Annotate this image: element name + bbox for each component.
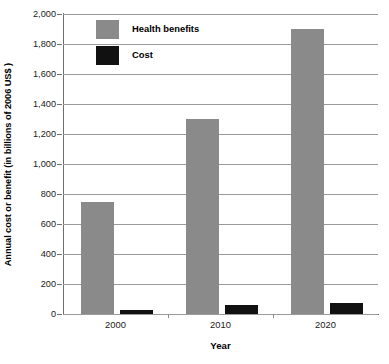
y-axis-title-text: Annual cost or benefit (in billions of 2… (4, 63, 13, 266)
bar-cost-2010 (225, 305, 258, 314)
bar-chart-figure: Annual cost or benefit (in billions of 2… (0, 0, 389, 364)
legend-label: Cost (132, 50, 153, 59)
bar-health-benefits-2010 (186, 119, 219, 314)
y-axis-tick (57, 134, 62, 135)
y-axis-tick (57, 74, 62, 75)
y-axis-tick (57, 314, 62, 315)
y-axis-tick-label: 600 (41, 220, 56, 229)
y-axis-tick-label: 1,400 (33, 100, 56, 109)
y-axis-tick-label: 800 (41, 190, 56, 199)
y-axis-tick (57, 104, 62, 105)
gridline (63, 314, 378, 315)
x-axis-tick-label: 2020 (273, 320, 378, 329)
y-axis-tick-label: 1,000 (33, 160, 56, 169)
legend-item: Cost (96, 42, 246, 68)
y-axis-tick (57, 164, 62, 165)
gridline (63, 194, 378, 195)
legend-label: Health benefits (132, 24, 199, 33)
y-axis-tick (57, 284, 62, 285)
y-axis-tick-label: 200 (41, 280, 56, 289)
legend-swatch-health-benefits (96, 20, 119, 39)
y-axis-tick-label: 1,200 (33, 130, 56, 139)
x-axis-category-separator (273, 314, 274, 318)
y-axis-tick (57, 254, 62, 255)
gridline (63, 134, 378, 135)
gridline (63, 104, 378, 105)
x-axis-title: Year (63, 341, 378, 351)
x-axis-tick-label: 2000 (63, 320, 168, 329)
y-axis-tick (57, 44, 62, 45)
y-axis-title: Annual cost or benefit (in billions of 2… (0, 0, 18, 330)
bar-health-benefits-2000 (81, 202, 114, 315)
bar-cost-2020 (330, 303, 363, 314)
y-axis-tick-label: 1,800 (33, 40, 56, 49)
x-axis-category-separator (168, 314, 169, 318)
chart-legend: Health benefitsCost (96, 16, 246, 68)
y-axis-tick-label: 1,600 (33, 70, 56, 79)
gridline (63, 14, 378, 15)
y-axis-tick (57, 194, 62, 195)
legend-item: Health benefits (96, 16, 246, 42)
bar-cost-2000 (120, 310, 153, 314)
gridline (63, 74, 378, 75)
y-axis-tick-labels: 02004006008001,0001,2001,4001,6001,8002,… (18, 14, 56, 314)
x-axis-tick-labels: 200020102020 (63, 320, 378, 336)
y-axis-tick-label: 400 (41, 250, 56, 259)
bar-health-benefits-2020 (291, 29, 324, 314)
x-axis-tick-label: 2010 (168, 320, 273, 329)
y-axis-tick-label: 0 (51, 310, 56, 319)
y-axis-tick-label: 2,000 (33, 10, 56, 19)
legend-swatch-cost (96, 46, 119, 65)
y-axis-tick (57, 14, 62, 15)
gridline (63, 164, 378, 165)
y-axis-tick (57, 224, 62, 225)
